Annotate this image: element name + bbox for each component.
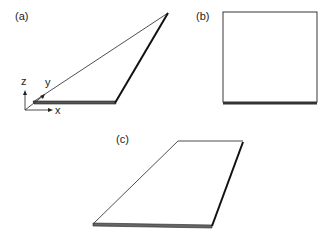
triangle-plate (33, 13, 168, 104)
panel-b: (b) (196, 10, 317, 105)
panel-c: (c) (93, 133, 243, 228)
axes-icon: z y x (21, 75, 61, 116)
panel-c-label: (c) (116, 133, 129, 145)
figure: (a) z y x (b) (c) (0, 0, 334, 237)
y-axis-label: y (45, 76, 51, 88)
panel-a-label: (a) (15, 10, 28, 22)
z-axis-label: z (21, 75, 27, 87)
panel-b-label: (b) (196, 10, 209, 22)
panel-a: (a) z y x (15, 10, 168, 116)
trapezoid-plate (93, 141, 243, 228)
x-axis-label: x (55, 104, 61, 116)
square-plate (223, 12, 317, 105)
